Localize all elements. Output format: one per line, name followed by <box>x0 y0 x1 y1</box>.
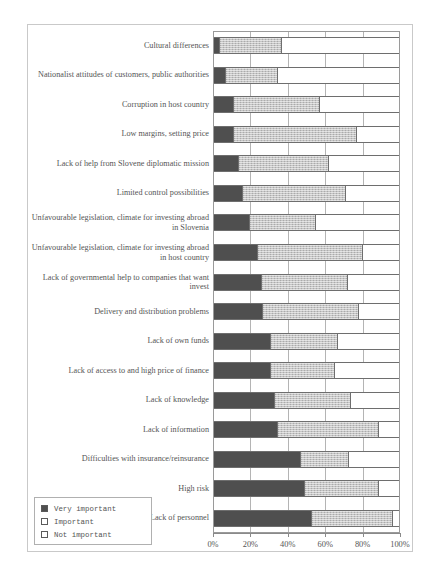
bar-segment-not-important <box>282 37 400 54</box>
legend-swatch-very-important-icon <box>41 505 48 512</box>
x-tick <box>325 533 326 537</box>
bar-segment-very-important <box>213 126 234 143</box>
x-axis-line <box>213 533 400 534</box>
legend-item-important: Important <box>41 515 145 528</box>
category-label: Lack of knowledge <box>27 395 213 405</box>
bar-segment-not-important <box>320 96 400 113</box>
bar-segment-very-important <box>213 96 234 113</box>
category-label: Lack of governmental help to companies t… <box>27 273 213 292</box>
bar-segment-important <box>305 480 380 497</box>
bar-segment-important <box>258 244 363 261</box>
bar-row <box>213 67 400 84</box>
bar-segment-important <box>263 303 358 320</box>
bar-row <box>213 451 400 468</box>
bar-segment-very-important <box>213 392 275 409</box>
bar-row <box>213 126 400 143</box>
chart-legend: Very important Important Not important <box>34 497 152 545</box>
legend-item-not-important: Not important <box>41 528 145 541</box>
bar-segment-important <box>312 510 392 527</box>
bar-segment-important <box>220 37 282 54</box>
bar-row <box>213 333 400 350</box>
bar-segment-not-important <box>348 274 400 291</box>
bar-segment-not-important <box>335 362 400 379</box>
bar-segment-not-important <box>316 214 400 231</box>
bar-row <box>213 274 400 291</box>
bar-segment-very-important <box>213 67 226 84</box>
x-tick-label: 40% <box>268 540 308 549</box>
bar-row <box>213 96 400 113</box>
category-label: Delivery and distribution problems <box>27 307 213 317</box>
bar-segment-important <box>234 96 320 113</box>
bar-row <box>213 480 400 497</box>
bar-segment-very-important <box>213 451 301 468</box>
category-label: Cultural differences <box>27 41 213 51</box>
x-tick <box>363 533 364 537</box>
bar-row <box>213 244 400 261</box>
bar-segment-not-important <box>363 244 400 261</box>
bar-rows <box>213 31 400 533</box>
bar-segment-important <box>226 67 278 84</box>
bar-segment-very-important <box>213 303 263 320</box>
x-tick-label: 0% <box>193 540 233 549</box>
bar-segment-very-important <box>213 274 262 291</box>
bar-row <box>213 510 400 527</box>
legend-item-very-important: Very important <box>41 502 145 515</box>
bar-segment-important <box>262 274 348 291</box>
bar-segment-very-important <box>213 510 312 527</box>
x-tick <box>288 533 289 537</box>
bar-segment-very-important <box>213 214 250 231</box>
bar-segment-not-important <box>379 421 400 438</box>
bar-segment-important <box>239 155 329 172</box>
x-tick-label: 80% <box>343 540 383 549</box>
bar-row <box>213 362 400 379</box>
bar-segment-important <box>278 421 379 438</box>
bar-segment-not-important <box>278 67 400 84</box>
bar-segment-important <box>301 451 350 468</box>
category-label: Limited control possibilities <box>27 188 213 198</box>
bar-segment-not-important <box>338 333 400 350</box>
legend-label-very-important: Very important <box>54 505 116 513</box>
legend-label-important: Important <box>54 518 94 526</box>
chart-figure: Cultural differencesNationalist attitude… <box>0 0 436 577</box>
category-label: Lack of help from Slovene diplomatic mis… <box>27 159 213 169</box>
bar-segment-not-important <box>351 392 400 409</box>
x-tick <box>250 533 251 537</box>
bar-segment-very-important <box>213 421 278 438</box>
bar-row <box>213 185 400 202</box>
bar-segment-not-important <box>379 480 400 497</box>
bar-segment-very-important <box>213 155 239 172</box>
bar-segment-very-important <box>213 333 271 350</box>
bar-segment-important <box>250 214 315 231</box>
bar-row <box>213 303 400 320</box>
category-label: Difficulties with insurance/reinsurance <box>27 454 213 464</box>
x-tick-label: 100% <box>380 540 420 549</box>
bar-segment-not-important <box>357 126 400 143</box>
category-label: Nationalist attitudes of customers, publ… <box>27 70 213 80</box>
x-tick-label: 60% <box>305 540 345 549</box>
bar-segment-important <box>271 333 338 350</box>
bar-segment-important <box>275 392 352 409</box>
category-label: Lack of access to and high price of fina… <box>27 366 213 376</box>
x-tick <box>400 533 401 537</box>
bar-segment-very-important <box>213 244 258 261</box>
bar-segment-important <box>234 126 357 143</box>
legend-swatch-important-icon <box>41 518 48 525</box>
x-tick <box>213 533 214 537</box>
legend-swatch-not-important-icon <box>41 531 48 538</box>
category-label: Corruption in host country <box>27 100 213 110</box>
bar-segment-important <box>271 362 335 379</box>
category-label: Lack of own funds <box>27 336 213 346</box>
bar-segment-not-important <box>349 451 399 468</box>
category-label: High risk <box>27 484 213 494</box>
bar-row <box>213 421 400 438</box>
category-label: Unfavourable legislation, climate for in… <box>27 243 213 262</box>
bar-segment-very-important <box>213 362 271 379</box>
bar-segment-important <box>243 185 346 202</box>
bar-row <box>213 37 400 54</box>
legend-label-not-important: Not important <box>54 531 112 539</box>
category-label: Unfavourable legislation, climate for in… <box>27 213 213 232</box>
bar-segment-very-important <box>213 37 220 54</box>
plot-area <box>213 31 400 533</box>
bar-segment-not-important <box>329 155 400 172</box>
bar-segment-very-important <box>213 185 243 202</box>
